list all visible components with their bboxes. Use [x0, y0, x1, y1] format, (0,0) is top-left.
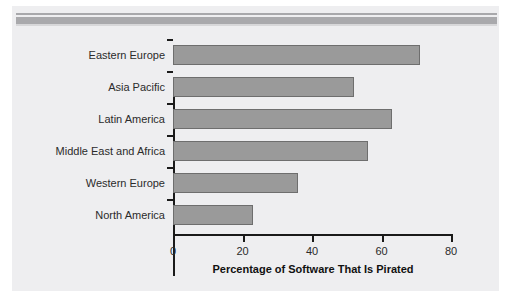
bar-fill [173, 109, 392, 129]
y-axis-tick [167, 167, 173, 169]
y-axis-tick [167, 103, 173, 105]
bar-latin-america [173, 109, 392, 129]
y-axis-tick [167, 135, 173, 137]
category-label: Eastern Europe [89, 45, 165, 65]
x-axis-tick [243, 236, 245, 242]
category-label: Middle East and Africa [56, 141, 165, 161]
y-axis-tick [167, 39, 173, 41]
x-axis-tick-label: 80 [445, 245, 457, 257]
chart-page: Eastern EuropeAsia PacificLatin AmericaM… [0, 0, 508, 297]
bar-north-america [173, 205, 253, 225]
horizontal-bar-chart: Eastern EuropeAsia PacificLatin AmericaM… [0, 0, 508, 297]
x-axis-tick-label: 20 [236, 245, 248, 257]
category-label: Western Europe [86, 173, 165, 193]
bar-eastern-europe [173, 45, 420, 65]
x-axis-tick [312, 236, 314, 242]
category-label: North America [95, 205, 165, 225]
bar-western-europe [173, 173, 298, 193]
bar-fill [173, 45, 420, 65]
x-axis-tick-label: 0 [170, 245, 176, 257]
category-label: Latin America [98, 109, 165, 129]
bar-middle-east-and-africa [173, 141, 368, 161]
x-axis-title: Percentage of Software That Is Pirated [173, 263, 453, 275]
bar-fill [173, 141, 368, 161]
bar-fill [173, 77, 354, 97]
x-axis-tick [451, 236, 453, 242]
category-label: Asia Pacific [108, 77, 165, 97]
x-axis-tick-label: 60 [375, 245, 387, 257]
x-axis-tick [382, 236, 384, 242]
x-axis-tick [173, 236, 175, 242]
bar-asia-pacific [173, 77, 354, 97]
y-axis-tick [167, 71, 173, 73]
x-axis-tick-label: 40 [306, 245, 318, 257]
bar-fill [173, 205, 253, 225]
bar-fill [173, 173, 298, 193]
y-axis-tick [167, 199, 173, 201]
